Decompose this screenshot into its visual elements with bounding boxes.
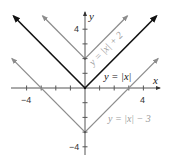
equation-label-abs: y = |x|	[103, 71, 131, 82]
x-axis-label: x	[152, 74, 158, 86]
equation-label-minus3: y = |x| − 3	[107, 113, 151, 124]
vertex-point	[84, 131, 86, 133]
y-axis-label: y	[88, 10, 94, 22]
equation-label-plus2: y = |x| + 2	[86, 29, 125, 68]
y-tick-label-neg4: −4	[69, 142, 79, 152]
absolute-value-graph: x y −4 4 4 −4 y = |x| + 2 y = |x| y = |x…	[0, 0, 169, 163]
axes	[11, 12, 160, 155]
x-tick-label-4: 4	[140, 95, 145, 105]
x-tick-label-neg4: −4	[21, 95, 31, 105]
y-tick-label-4: 4	[74, 24, 79, 34]
vertex-point	[84, 87, 86, 89]
